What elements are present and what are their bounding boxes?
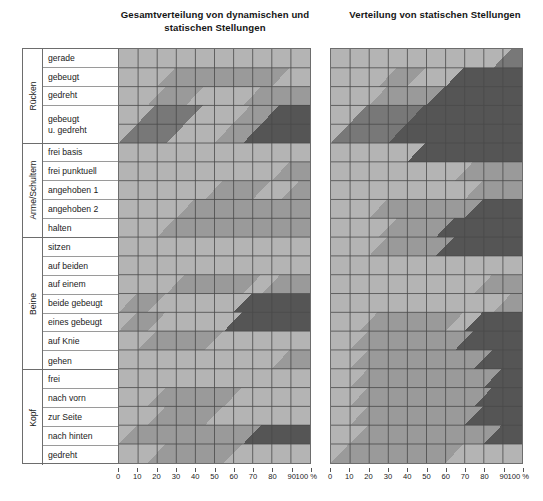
band-segment bbox=[331, 162, 473, 181]
plot-area-right bbox=[330, 48, 523, 464]
band-segment bbox=[331, 444, 464, 463]
row-label: gebeugt u. gedreht bbox=[43, 106, 118, 144]
row-group-arme-schultern: Arme/Schulternfrei basisfrei punktuellan… bbox=[23, 144, 118, 239]
band-segment bbox=[176, 199, 310, 218]
group-rows: sitzenauf beidenauf einembeide gebeugtei… bbox=[43, 238, 118, 369]
axis-tick-label: 30 bbox=[384, 472, 392, 481]
band-segment bbox=[119, 350, 290, 369]
band-chart-svg bbox=[331, 49, 522, 463]
band-segment bbox=[350, 406, 483, 425]
axis-tick-label: 20 bbox=[364, 472, 372, 481]
row-label: sitzen bbox=[43, 238, 118, 257]
band-segment bbox=[350, 331, 473, 350]
plot-area-left bbox=[118, 48, 311, 464]
group-label: Beine bbox=[23, 238, 43, 369]
band-segment bbox=[119, 425, 261, 444]
x-axis-left: 0102030405060708090100 % bbox=[118, 468, 311, 484]
row-label: gedreht bbox=[43, 87, 118, 106]
row-group-kopf: Kopffreinach vornzur Seitenach hintenged… bbox=[23, 370, 118, 465]
row-label: auf beiden bbox=[43, 257, 118, 276]
axis-tick-label: 0 bbox=[328, 472, 332, 481]
axis-tick-label: 70 bbox=[461, 472, 469, 481]
row-label: auf einem bbox=[43, 276, 118, 295]
axis-tick-label: 30 bbox=[172, 472, 180, 481]
row-label: frei bbox=[43, 370, 118, 389]
chart-page: Gesamtverteilung von dynamischen und sta… bbox=[0, 0, 543, 501]
axis-tick-label: 80 bbox=[268, 472, 276, 481]
axis-tick-label: 100 % bbox=[507, 472, 529, 481]
band-segment bbox=[331, 275, 492, 294]
row-label-table: Rückengeradegebeugtgedrehtgebeugt u. ged… bbox=[22, 48, 118, 464]
row-label: eines gebeugt bbox=[43, 314, 118, 333]
chart-title-right: Verteilung von statischen Stellungen bbox=[330, 8, 540, 21]
band-chart-svg bbox=[119, 49, 310, 463]
row-label: gehen bbox=[43, 351, 118, 370]
axis-tick-label: 40 bbox=[403, 472, 411, 481]
row-label: angehoben 1 bbox=[43, 181, 118, 200]
axis-tick-label: 10 bbox=[345, 472, 353, 481]
axis-tick-label: 20 bbox=[152, 472, 160, 481]
row-label: zur Seite bbox=[43, 408, 118, 427]
row-label: gebeugt bbox=[43, 68, 118, 87]
band-segment bbox=[331, 49, 511, 68]
group-rows: freinach vornzur Seitenach hintengedreht bbox=[43, 370, 118, 465]
row-label: halten bbox=[43, 219, 118, 238]
group-label: Kopf bbox=[23, 370, 43, 465]
row-label: angehoben 2 bbox=[43, 200, 118, 219]
row-label: gerade bbox=[43, 49, 118, 68]
band-segment bbox=[205, 331, 310, 350]
x-axis-right: 0102030405060708090100 % bbox=[330, 468, 523, 484]
axis-tick-label: 100 % bbox=[295, 472, 317, 481]
group-label-text: Kopf bbox=[28, 409, 38, 427]
band-segment bbox=[350, 350, 492, 369]
axis-tick-label: 50 bbox=[210, 472, 218, 481]
band-segment bbox=[369, 199, 482, 218]
axis-tick-label: 0 bbox=[116, 472, 120, 481]
group-label-text: Beine bbox=[28, 293, 38, 315]
axis-tick-label: 80 bbox=[480, 472, 488, 481]
row-label: nach vorn bbox=[43, 389, 118, 408]
axis-tick-label: 50 bbox=[422, 472, 430, 481]
band-segment bbox=[350, 369, 502, 388]
band-segment bbox=[157, 68, 290, 87]
band-segment bbox=[360, 312, 464, 331]
row-label: gedreht bbox=[43, 446, 118, 465]
axis-tick-label: 10 bbox=[133, 472, 141, 481]
group-rows: frei basisfrei punktuellangehoben 1angeh… bbox=[43, 144, 118, 238]
row-label: beide gebeugt bbox=[43, 295, 118, 314]
band-segment bbox=[331, 181, 483, 200]
band-segment bbox=[148, 294, 252, 313]
row-group-r-cken: Rückengeradegebeugtgedrehtgebeugt u. ged… bbox=[23, 49, 118, 144]
chart-title-left: Gesamtverteilung von dynamischen und sta… bbox=[100, 8, 330, 34]
band-segment bbox=[119, 162, 290, 181]
group-label: Rücken bbox=[23, 49, 43, 143]
group-label: Arme/Schultern bbox=[23, 144, 43, 238]
axis-tick-label: 60 bbox=[442, 472, 450, 481]
row-label: nach hinten bbox=[43, 427, 118, 446]
axis-tick-label: 40 bbox=[191, 472, 199, 481]
row-label: frei basis bbox=[43, 144, 118, 163]
band-segment bbox=[350, 425, 502, 444]
row-group-beine: Beinesitzenauf beidenauf einembeide gebe… bbox=[23, 238, 118, 370]
group-rows: geradegebeugtgedrehtgebeugt u. gedreht bbox=[43, 49, 118, 143]
axis-tick-label: 60 bbox=[230, 472, 238, 481]
band-segment bbox=[205, 406, 310, 425]
axis-tick-label: 70 bbox=[249, 472, 257, 481]
band-segment bbox=[350, 388, 492, 407]
row-label: auf Knie bbox=[43, 332, 118, 351]
group-label-text: Arme/Schultern bbox=[28, 161, 38, 220]
band-segment bbox=[331, 294, 511, 313]
group-label-text: Rücken bbox=[28, 81, 38, 110]
row-label: frei punktuell bbox=[43, 162, 118, 181]
band-segment bbox=[119, 181, 223, 200]
